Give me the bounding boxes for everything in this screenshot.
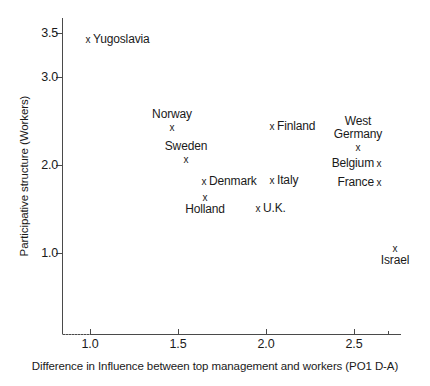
point-marker-x-icon: x xyxy=(168,123,176,133)
point-label: Finland xyxy=(277,120,315,133)
point-marker-x-icon: x xyxy=(268,122,276,132)
x-tick-label: 1.5 xyxy=(158,338,198,351)
x-tick-mark xyxy=(354,329,355,334)
x-tick-mark xyxy=(90,329,91,334)
x-tick-label: 2.5 xyxy=(334,338,374,351)
y-axis-title: Participative structure (Workers) xyxy=(18,66,30,286)
point-label: Belgium xyxy=(332,157,374,170)
x-axis-dotted-segment xyxy=(62,334,90,335)
scatter-plot-figure: 3.53.02.01.0 1.01.52.02.5 xYugoslaviaxNo… xyxy=(0,0,430,386)
x-axis-line xyxy=(62,334,401,335)
point-marker-x-icon: x xyxy=(182,155,190,165)
x-tick-mark-minor xyxy=(388,331,389,334)
point-marker-x-icon: x xyxy=(268,176,276,186)
x-tick-label: 1.0 xyxy=(70,338,110,351)
x-axis-title: Difference in Influence between top mana… xyxy=(0,360,430,372)
point-marker-x-icon: x xyxy=(375,159,383,169)
x-tick-mark xyxy=(266,329,267,334)
point-marker-x-icon: x xyxy=(200,177,208,187)
x-tick-label: 2.0 xyxy=(246,338,286,351)
y-tick-label: 3.5 xyxy=(18,27,58,40)
point-label: Norway xyxy=(152,108,192,121)
point-label: Holland xyxy=(185,203,225,216)
point-label: Sweden xyxy=(165,140,207,153)
x-tick-mark xyxy=(178,329,179,334)
point-label: Yugoslavia xyxy=(93,33,150,46)
point-label: Denmark xyxy=(209,175,257,188)
y-axis-line xyxy=(62,18,63,335)
point-marker-x-icon: x xyxy=(375,178,383,188)
point-label: WestGermany xyxy=(334,115,382,141)
point-label: France xyxy=(338,176,374,189)
point-marker-x-icon: x xyxy=(84,35,92,45)
point-marker-x-icon: x xyxy=(354,143,362,153)
point-label: U.K. xyxy=(263,202,286,215)
point-label: Israel xyxy=(381,254,409,267)
point-label: Italy xyxy=(277,174,298,187)
point-marker-x-icon: x xyxy=(254,204,262,214)
